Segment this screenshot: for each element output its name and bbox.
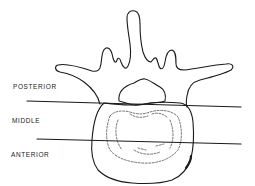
lamina-outline bbox=[119, 79, 165, 105]
middle-anterior-division-line bbox=[37, 139, 241, 144]
anterior-label: ANTERIOR bbox=[11, 152, 49, 159]
posterior-arch-outline bbox=[56, 11, 233, 107]
trabecular-pattern bbox=[107, 110, 182, 163]
middle-label: MIDDLE bbox=[12, 118, 40, 125]
vertebra-diagram: POSTERIOR MIDDLE ANTERIOR bbox=[0, 0, 255, 186]
posterior-label: POSTERIOR bbox=[13, 84, 57, 91]
posterior-middle-division-line bbox=[27, 101, 241, 107]
